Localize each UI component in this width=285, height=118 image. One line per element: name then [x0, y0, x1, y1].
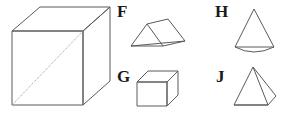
triangular-prism-shape-f [131, 19, 185, 46]
prism-bottom-front-edge [131, 41, 185, 46]
shape-label-f: F [117, 3, 127, 20]
pyramid-shape-j [234, 67, 276, 105]
large-cube-top-face [12, 7, 110, 31]
cone-left-slant-edge [235, 9, 254, 47]
cone-shape-h [235, 9, 274, 52]
pyramid-right-lateral-edge [253, 67, 276, 96]
prism-ridge-edge [147, 19, 168, 24]
figure-canvas: F G H J [0, 0, 285, 118]
shape-label-g: G [117, 68, 130, 85]
prism-front-triangle [131, 24, 163, 46]
shape-label-j: J [216, 68, 225, 85]
large-cube-right-face [83, 7, 110, 105]
cone-right-slant-edge [254, 9, 274, 47]
pyramid-front-face [234, 67, 268, 105]
large-cube [12, 7, 110, 105]
small-cube-shape-g [137, 71, 178, 106]
small-cube-front-face [137, 82, 167, 106]
small-cube-right-face [167, 71, 178, 106]
shape-label-h: H [215, 3, 228, 20]
large-cube-diagonal-line [12, 31, 83, 105]
pyramid-right-base-edge [268, 96, 276, 105]
solids-figure-svg [0, 0, 285, 118]
prism-right-slope [168, 19, 185, 41]
cone-base-arc [235, 47, 274, 52]
